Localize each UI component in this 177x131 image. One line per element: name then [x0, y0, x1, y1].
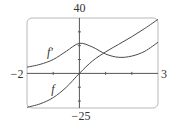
- chart: 40 −25 −2 3 f′ f: [0, 0, 177, 131]
- tick-marks: [53, 32, 132, 101]
- x-max-label: 3: [161, 67, 167, 81]
- y-max-label: 40: [73, 1, 85, 15]
- y-min-label: −25: [72, 109, 91, 123]
- f-prime-label: f′: [47, 45, 53, 59]
- x-min-label: −2: [11, 67, 24, 81]
- f-label: f: [51, 82, 56, 96]
- curve-f: [27, 19, 158, 107]
- plot-frame: [27, 18, 158, 108]
